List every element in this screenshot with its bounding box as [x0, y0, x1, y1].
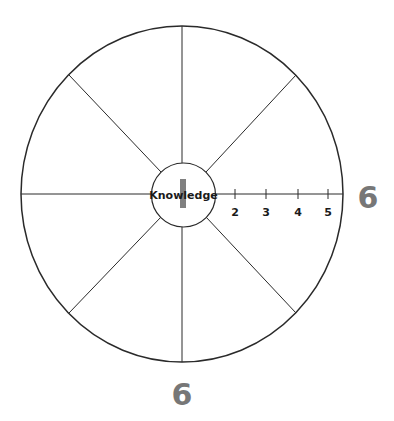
- spoke-top-right: [206, 75, 296, 172]
- spoke-top-left: [69, 75, 161, 172]
- tick-label-2: 2: [231, 206, 239, 219]
- tick-label-5: 5: [324, 206, 332, 219]
- tick-label-3: 3: [262, 206, 270, 219]
- spoke-bottom-left: [69, 217, 161, 313]
- spoke-bottom-right: [206, 217, 296, 313]
- wheel-diagram: Knowledge 2 3 4 5 6 6: [0, 0, 394, 421]
- outer-label-right: 6: [358, 180, 379, 215]
- tick-label-4: 4: [294, 206, 302, 219]
- outer-label-bottom: 6: [172, 377, 193, 412]
- center-label: Knowledge: [149, 189, 218, 202]
